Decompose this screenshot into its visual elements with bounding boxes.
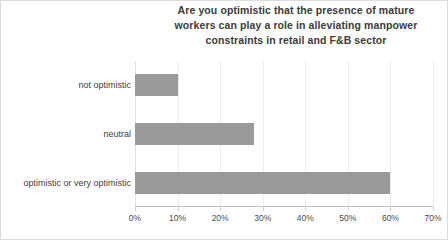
category-label-neutral: neutral [5,129,131,139]
bar-optimistic-or-very-optimistic[interactable] [135,172,390,194]
bar-row [135,123,254,145]
xtick-label-0%: 0% [115,213,155,223]
tickmark-50% [348,207,349,211]
chart-title: Are you optimistic that the presence of … [149,3,443,48]
bar-not-optimistic[interactable] [135,74,178,96]
xtick-label-20%: 20% [200,213,240,223]
xtick-label-50%: 50% [328,213,368,223]
tickmark-0% [135,207,136,211]
tickmark-40% [305,207,306,211]
gridline-70% [433,61,434,207]
chart-title-line-3: constraints in retail and F&B sector [149,33,443,48]
category-axis-labels: not optimisticneutraloptimistic or very … [1,61,131,207]
bar-row [135,172,390,194]
plot-area [135,61,433,207]
x-axis-line [135,206,433,207]
category-label-not-optimistic: not optimistic [5,80,131,90]
tickmark-70% [433,207,434,211]
xtick-label-60%: 60% [370,213,410,223]
xtick-label-30%: 30% [243,213,283,223]
chart-title-line-1: Are you optimistic that the presence of … [149,3,443,18]
xtick-label-70%: 70% [413,213,448,223]
tickmark-60% [390,207,391,211]
chart-container: Are you optimistic that the presence of … [0,0,448,240]
tickmark-20% [220,207,221,211]
xtick-label-40%: 40% [285,213,325,223]
bar-row [135,74,178,96]
tickmark-30% [263,207,264,211]
tickmark-10% [178,207,179,211]
category-label-optimistic-or-very-optimistic: optimistic or very optimistic [5,178,131,188]
xtick-label-10%: 10% [158,213,198,223]
bar-neutral[interactable] [135,123,254,145]
x-axis-tick-labels: 0%10%20%30%40%50%60%70% [1,213,448,229]
gridline-60% [390,61,391,207]
chart-title-line-2: workers can play a role in alleviating m… [149,18,443,33]
